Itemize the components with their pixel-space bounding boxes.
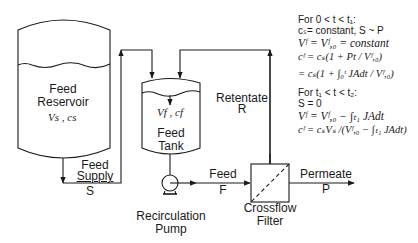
pump-label-2: Pump	[132, 223, 210, 236]
phase2-condition: S = 0	[298, 98, 418, 109]
phase1-eq1: Vᶠ = Vᶠ,₀ = constant	[298, 36, 418, 50]
feed-symbol: F	[213, 184, 233, 197]
feed-supply-label-2: Supply	[74, 170, 116, 183]
equations-panel: For 0 < t < t₁: cₛ= constant, S ~ P Vᶠ =…	[298, 14, 418, 137]
feed-label: Feed	[203, 168, 243, 181]
feed-supply-symbol: S	[80, 185, 100, 198]
crossflow-filter-icon	[251, 154, 289, 202]
phase1-heading: For 0 < t < t₁:	[298, 14, 418, 25]
feed-reservoir-vars: Vs , cs	[48, 111, 76, 123]
filter-label-2: Filter	[240, 215, 300, 228]
feed-tank-label-2: Tank	[146, 140, 196, 153]
phase2-eq2: cᶠ = cₛVₛ /(Vᶠ,₀ − ∫ₜ₁ JAdt)	[298, 123, 418, 137]
permeate-label: Permeate	[298, 168, 354, 181]
phase1-eq2: cᶠ = cₛ(1 + Pt / Vᶠ,₀)	[298, 50, 418, 64]
feed-tank-vars: Vf , cf	[157, 106, 183, 118]
recirculation-pump-icon	[162, 175, 178, 194]
phase2-heading: For t₁ < t < t₂:	[298, 87, 418, 98]
phase1-eq3: = cₛ(1 + ∫₀ᵗ JAdt / Vᶠ,₀)	[298, 67, 418, 81]
phase1-condition: cₛ= constant, S ~ P	[298, 25, 418, 36]
retentate-symbol: R	[232, 103, 252, 116]
feed-reservoir-label-2: Reservoir	[33, 96, 93, 109]
phase2-eq1: Vᶠ = Vᶠ,₀ − ∫ₜ₁ JAdt	[298, 109, 418, 123]
permeate-symbol: P	[316, 183, 336, 196]
